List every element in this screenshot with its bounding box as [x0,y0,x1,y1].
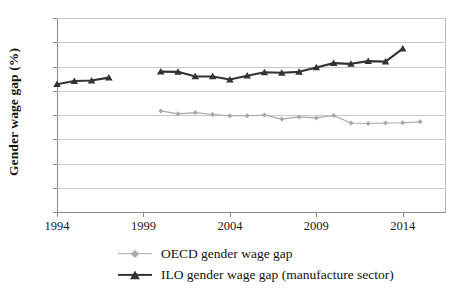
chart-figure: Gender wage gap (%) 01020304050607080 19… [0,0,462,291]
x-tick-mark [143,212,144,217]
data-point-diamond [400,120,405,125]
legend-item-oecd: OECD gender wage gap [118,243,448,264]
x-tick-mark [403,212,404,217]
x-tick-label: 1999 [113,219,173,234]
data-point-diamond [297,114,302,119]
x-tick-label: 1994 [27,219,87,234]
x-tick-label: 2004 [200,219,260,234]
data-point-diamond [383,121,388,126]
x-tick-label: 2009 [286,219,346,234]
legend-item-ilo: ILO gender wage gap (manufacture sector) [118,264,448,285]
data-point-diamond [366,121,371,126]
plot-area [57,18,446,212]
series-line [161,111,420,124]
data-point-diamond [279,117,284,122]
legend-marker-triangle-icon [118,267,152,283]
data-point-diamond [262,113,267,118]
data-point-diamond [418,119,423,124]
x-tick-mark [316,212,317,217]
series-line [57,78,109,85]
x-tick-mark [57,212,58,217]
data-point-diamond [176,111,181,116]
x-tick-mark [230,212,231,217]
y-axis-title: Gender wage gap (%) [6,12,22,212]
data-point-triangle [399,45,407,51]
data-point-diamond [227,113,232,118]
data-point-diamond [245,113,250,118]
data-point-diamond [210,112,215,117]
legend-label-ilo: ILO gender wage gap (manufacture sector) [161,267,394,283]
x-tick-label: 2014 [373,219,433,234]
chart-legend: OECD gender wage gap ILO gender wage gap… [118,243,448,285]
data-point-diamond [348,121,353,126]
series-layer [57,18,446,212]
data-point-diamond [331,113,336,118]
x-axis: 19941999200420092014 [57,212,446,236]
legend-label-oecd: OECD gender wage gap [161,246,293,262]
data-point-diamond [314,115,319,120]
data-point-diamond [158,108,163,113]
legend-marker-diamond-icon [118,246,152,262]
data-point-diamond [193,110,198,115]
